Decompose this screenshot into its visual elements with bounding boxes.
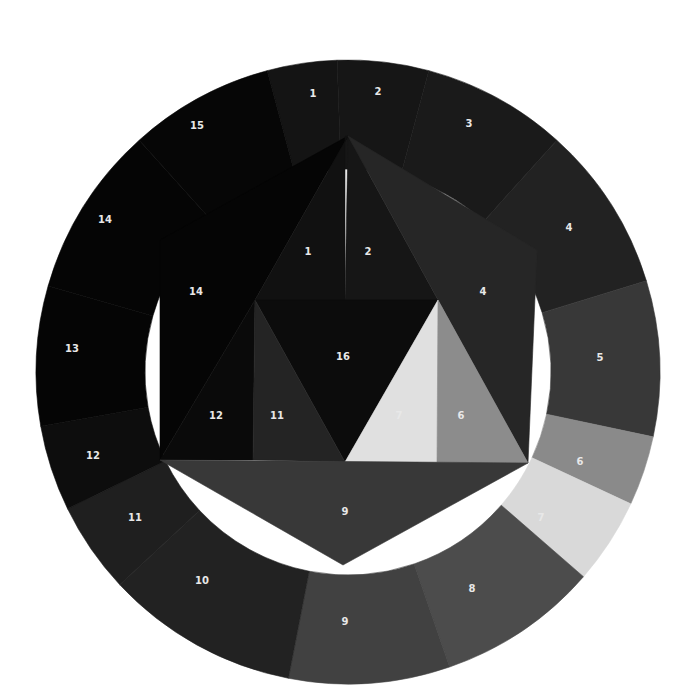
hexagon-region-label: 1 — [305, 246, 312, 257]
ring-segment-label: 1 — [310, 88, 317, 99]
ring-segment-label: 14 — [98, 214, 112, 225]
ring-segment-label: 2 — [375, 86, 382, 97]
color-circle-diagram: 12345678910111213141514124161211769 — [0, 0, 691, 695]
ring-segment-label: 9 — [342, 616, 349, 627]
hexagon-region-label: 16 — [336, 351, 350, 362]
ring-segment-label: 5 — [597, 352, 604, 363]
hexagon-region-label: 6 — [458, 410, 465, 421]
hexagon-region-label: 14 — [189, 286, 203, 297]
hexagon-region-label: 9 — [342, 506, 349, 517]
hexagon-region-label: 12 — [209, 410, 223, 421]
hexagon-region-label: 7 — [396, 410, 403, 421]
ring-segment-label: 12 — [86, 450, 100, 461]
ring-segment-label: 7 — [538, 512, 545, 523]
ring-segment-label: 4 — [566, 222, 573, 233]
ring-segment-label: 15 — [190, 120, 204, 131]
hexagon-region-label: 11 — [270, 410, 284, 421]
hexagon-region-label: 4 — [480, 286, 487, 297]
ring-segment-label: 6 — [577, 456, 584, 467]
ring-segment-label: 8 — [469, 583, 476, 594]
hexagon-region-label: 2 — [365, 246, 372, 257]
ring-segment-label: 10 — [195, 575, 209, 586]
ring-segment-label: 11 — [128, 512, 142, 523]
ring-segment-label: 13 — [65, 343, 79, 354]
ring-segment-label: 3 — [466, 118, 473, 129]
